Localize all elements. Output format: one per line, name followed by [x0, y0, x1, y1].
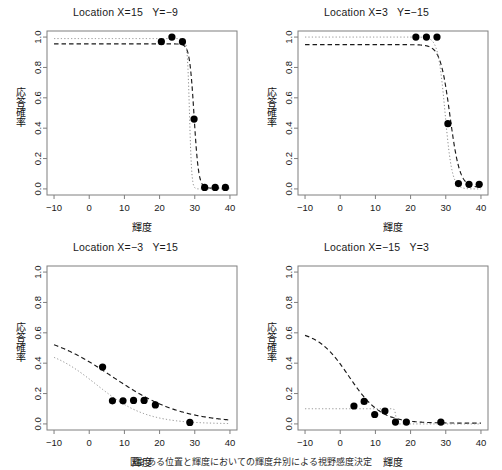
svg-text:−10: −10	[46, 437, 62, 448]
svg-text:40: 40	[225, 202, 236, 213]
svg-text:40: 40	[225, 437, 236, 448]
svg-text:0.8: 0.8	[283, 61, 294, 74]
svg-text:0.8: 0.8	[283, 296, 294, 309]
svg-text:30: 30	[440, 437, 451, 448]
svg-text:1.0: 1.0	[283, 265, 294, 278]
svg-text:10: 10	[370, 437, 381, 448]
svg-text:40: 40	[476, 437, 487, 448]
svg-text:0.0: 0.0	[283, 182, 294, 195]
svg-text:30: 30	[189, 437, 200, 448]
svg-text:0.2: 0.2	[32, 152, 43, 165]
svg-text:0.8: 0.8	[32, 61, 43, 74]
svg-text:20: 20	[405, 437, 416, 448]
svg-text:−10: −10	[46, 202, 62, 213]
svg-text:40: 40	[476, 202, 487, 213]
svg-text:0.0: 0.0	[32, 182, 43, 195]
plot-area: −100102030400.00.20.40.60.81.0	[0, 0, 251, 228]
svg-text:0.8: 0.8	[32, 296, 43, 309]
chart-panel: Location X=−3 Y=15 −100102030400.00.20.4…	[0, 235, 251, 463]
svg-text:1.0: 1.0	[32, 30, 43, 43]
svg-text:−10: −10	[297, 437, 313, 448]
svg-text:1.0: 1.0	[283, 30, 294, 43]
svg-text:10: 10	[370, 202, 381, 213]
chart-panel: Location X=−15 Y=3 −100102030400.00.20.4…	[251, 235, 502, 463]
svg-text:0.6: 0.6	[32, 326, 43, 339]
figure-container: Location X=15 Y=−9 −100102030400.00.20.4…	[0, 0, 502, 470]
y-axis-label: 応答確率	[265, 87, 275, 127]
svg-text:10: 10	[119, 202, 130, 213]
y-axis-label: 応答確率	[14, 322, 24, 362]
svg-text:0: 0	[338, 437, 343, 448]
svg-text:1.0: 1.0	[32, 265, 43, 278]
plot-area: −100102030400.00.20.40.60.81.0	[251, 0, 502, 228]
svg-text:30: 30	[440, 202, 451, 213]
svg-text:0.2: 0.2	[32, 387, 43, 400]
svg-text:0.2: 0.2	[283, 152, 294, 165]
svg-text:0: 0	[87, 202, 92, 213]
svg-text:0.4: 0.4	[283, 357, 294, 370]
svg-text:20: 20	[154, 202, 165, 213]
svg-text:−10: −10	[297, 202, 313, 213]
svg-text:0.6: 0.6	[32, 91, 43, 104]
svg-text:20: 20	[405, 202, 416, 213]
chart-panel: Location X=3 Y=−15 −100102030400.00.20.4…	[251, 0, 502, 228]
plot-area: −100102030400.00.20.40.60.81.0	[0, 235, 251, 463]
y-axis-label: 応答確率	[14, 87, 24, 127]
x-axis-label: 輝度	[47, 219, 237, 234]
figure-caption: 図2 ある位置と輝度においての輝度弁別による視野感度決定	[0, 455, 502, 470]
svg-text:0.0: 0.0	[32, 417, 43, 430]
svg-text:0.4: 0.4	[283, 122, 294, 135]
svg-text:10: 10	[119, 437, 130, 448]
svg-text:0.4: 0.4	[32, 122, 43, 135]
svg-text:0.4: 0.4	[32, 357, 43, 370]
x-axis-label: 輝度	[298, 219, 488, 234]
svg-text:0.2: 0.2	[283, 387, 294, 400]
svg-text:30: 30	[189, 202, 200, 213]
y-axis-label: 応答確率	[265, 322, 275, 362]
svg-text:0.6: 0.6	[283, 326, 294, 339]
svg-text:0.6: 0.6	[283, 91, 294, 104]
svg-text:0.0: 0.0	[283, 417, 294, 430]
plot-area: −100102030400.00.20.40.60.81.0	[251, 235, 502, 463]
svg-text:0: 0	[338, 202, 343, 213]
chart-panel: Location X=15 Y=−9 −100102030400.00.20.4…	[0, 0, 251, 228]
svg-text:20: 20	[154, 437, 165, 448]
svg-text:0: 0	[87, 437, 92, 448]
